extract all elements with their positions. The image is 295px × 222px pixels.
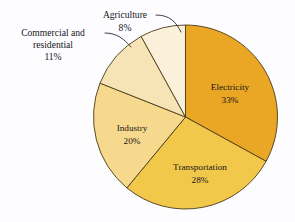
pie-label-industry-percent: 20% — [124, 136, 141, 146]
pie-chart-svg: Electricity 33% Transportation 28% Indus… — [0, 0, 295, 222]
pie-label-agriculture-percent: 8% — [119, 22, 132, 33]
pie-label-transportation-name: Transportation — [173, 162, 227, 172]
pie-label-transportation-percent: 28% — [192, 175, 209, 185]
pie-label-commercial-and-residential-line2: residential — [33, 39, 73, 50]
pie-slices — [93, 25, 277, 209]
pie-label-agriculture-name: Agriculture — [103, 9, 147, 20]
pie-label-electricity-percent: 33% — [222, 95, 239, 105]
pie-label-commercial-and-residential-line1: Commercial and — [21, 27, 85, 38]
pie-chart-figure: Electricity 33% Transportation 28% Indus… — [0, 0, 295, 222]
pie-label-commercial-and-residential-percent: 11% — [44, 51, 61, 62]
pie-label-industry-name: Industry — [117, 123, 148, 133]
pie-label-electricity-name: Electricity — [211, 82, 250, 92]
